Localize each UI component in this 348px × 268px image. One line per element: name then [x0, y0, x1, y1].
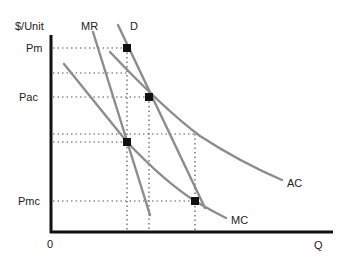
marker-pmc [191, 197, 199, 205]
marker-mr-mc [123, 138, 131, 146]
ac-label: AC [287, 177, 302, 189]
origin-label: 0 [47, 238, 53, 250]
markers [123, 44, 199, 205]
price-regulation-chart: $/Unit Pm Pac Pmc 0 Q MR D AC MC [0, 0, 348, 268]
marker-pac [145, 93, 153, 101]
ac-curve [110, 52, 282, 180]
mr-curve [93, 32, 150, 215]
pac-label: Pac [19, 91, 38, 103]
x-axis-label: Q [314, 239, 323, 251]
d-label: D [130, 20, 138, 32]
marker-pm [123, 44, 131, 52]
demand-curve [118, 25, 205, 208]
y-axis-label: $/Unit [15, 20, 44, 32]
mc-label: MC [231, 214, 248, 226]
curves [64, 25, 282, 218]
pmc-label: Pmc [18, 195, 41, 207]
pm-label: Pm [26, 42, 43, 54]
mr-label: MR [81, 20, 98, 32]
